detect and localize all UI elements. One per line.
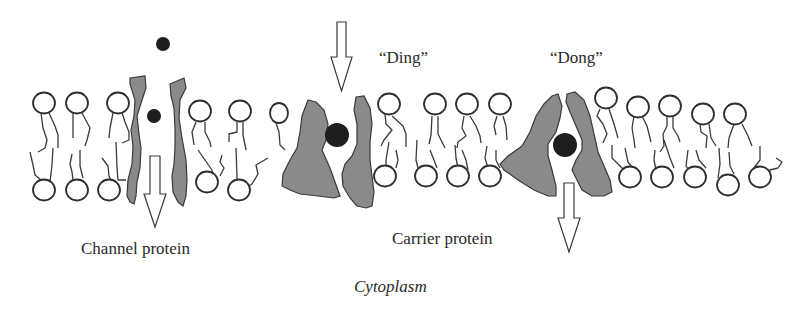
dong-label: “Dong” xyxy=(550,49,603,66)
carrier-protein-ding xyxy=(282,22,374,208)
membrane-transport-diagram: “Ding” “Dong” Channel protein Carrier pr… xyxy=(0,0,811,311)
lower-leaflet-heads xyxy=(33,166,771,201)
solute-particle-in-channel xyxy=(147,109,161,123)
channel-protein xyxy=(127,37,187,227)
dong-down-arrow xyxy=(558,183,580,252)
ding-label: “Ding” xyxy=(379,49,428,66)
carrier-protein-label: Carrier protein xyxy=(392,230,493,247)
channel-protein-left-subunit xyxy=(127,76,146,204)
diagram-canvas xyxy=(0,0,811,311)
carrier-protein-dong xyxy=(500,92,612,252)
channel-down-arrow xyxy=(144,156,166,227)
ding-down-arrow xyxy=(331,22,352,91)
solute-particle xyxy=(156,37,170,51)
ding-right-subunit xyxy=(342,96,374,208)
ding-left-subunit xyxy=(282,100,340,198)
channel-protein-right-subunit xyxy=(170,78,187,206)
solute-particle-in-dong xyxy=(553,133,577,157)
channel-protein-label: Channel protein xyxy=(81,240,190,257)
solute-particle-in-ding xyxy=(325,123,349,147)
cytoplasm-label: Cytoplasm xyxy=(354,278,427,295)
